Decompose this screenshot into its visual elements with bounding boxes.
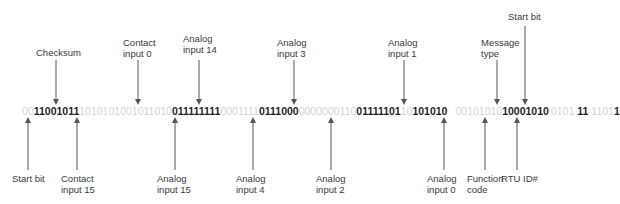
label-analog-input-4: Analog input 4 <box>236 173 266 195</box>
bits-message-type: 11 <box>577 104 588 118</box>
label-contact-input-15: Contact input 15 <box>61 173 95 195</box>
label-start-bit-bottom: Start bit <box>12 173 45 184</box>
bits-function-code: 0101 <box>551 104 574 118</box>
bits-rtu-id: 1101 <box>591 104 614 118</box>
label-rtu-id: RTU ID# <box>501 173 538 184</box>
label-analog-input-2: Analog input 2 <box>316 173 346 195</box>
label-analog-input-0: Analog input 0 <box>427 173 457 195</box>
bits-start-bit: 1 <box>614 104 620 118</box>
label-analog-input-15: Analog input 15 <box>157 173 191 195</box>
label-function-code: Function code <box>467 173 503 195</box>
